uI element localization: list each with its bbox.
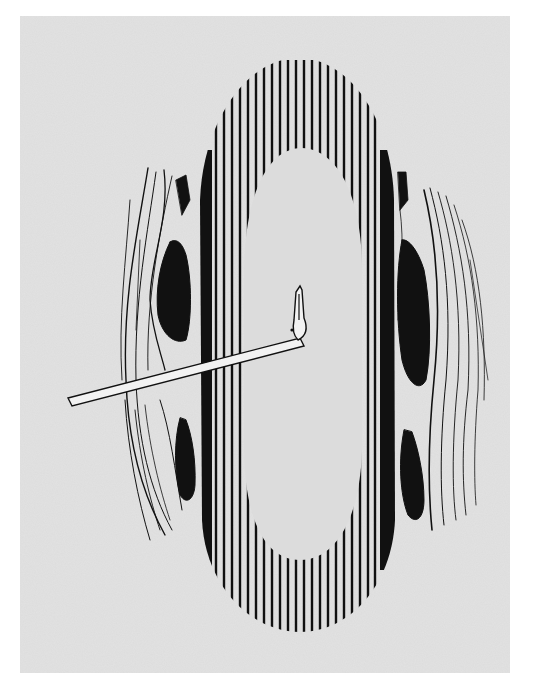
surgical-illustration (0, 0, 548, 682)
